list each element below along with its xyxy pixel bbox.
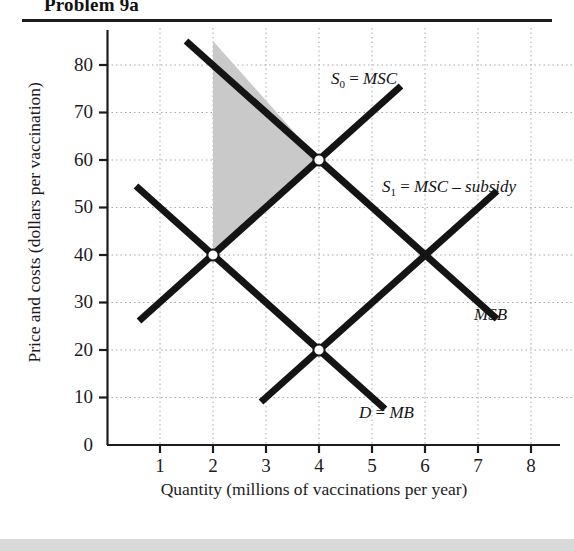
x-tick-2: 2 <box>198 455 228 477</box>
y-tick-10: 10 <box>47 386 93 408</box>
x-tick-4: 4 <box>304 455 334 477</box>
y-tick-50: 50 <box>47 196 93 218</box>
y-tick-60: 60 <box>47 149 93 171</box>
x-tick-5: 5 <box>357 455 387 477</box>
y-axis-ticks <box>99 65 107 398</box>
x-axis-ticks <box>160 445 531 453</box>
x-tick-8: 8 <box>516 455 546 477</box>
marker-q4-p60 <box>313 154 324 165</box>
screenshot-root: Problem 9a <box>0 0 574 551</box>
x-tick-7: 7 <box>463 455 493 477</box>
marker-q4-p20 <box>313 344 324 355</box>
curve-d-mb <box>136 186 385 409</box>
curve-label-msb: MSB <box>474 305 507 325</box>
economics-supply-demand-chart: 80 70 60 50 40 30 20 10 0 1 2 3 4 5 6 7 … <box>0 0 574 551</box>
x-tick-6: 6 <box>410 455 440 477</box>
x-axis-title: Quantity (millions of vaccinations per y… <box>104 479 524 500</box>
y-tick-0: 0 <box>47 434 93 456</box>
y-tick-40: 40 <box>47 244 93 266</box>
y-tick-80: 80 <box>47 54 93 76</box>
axis-lines <box>107 30 560 445</box>
gridlines <box>107 28 573 445</box>
y-tick-30: 30 <box>47 291 93 313</box>
curve-label-s1-msc-subsidy: S1 = MSC – subsidy <box>382 177 516 198</box>
marker-q2-p40 <box>207 249 218 260</box>
y-axis-title: Price and costs (dollars per vaccination… <box>24 103 45 363</box>
curve-label-d-mb: D = MB <box>359 403 414 423</box>
page-footer-bar <box>0 539 574 551</box>
y-tick-70: 70 <box>47 101 93 123</box>
x-tick-1: 1 <box>145 455 175 477</box>
y-tick-20: 20 <box>47 339 93 361</box>
x-tick-3: 3 <box>251 455 281 477</box>
curve-label-s0-msc: S0 = MSC <box>331 69 397 90</box>
curve-s1-msc-subsidy <box>261 191 497 402</box>
